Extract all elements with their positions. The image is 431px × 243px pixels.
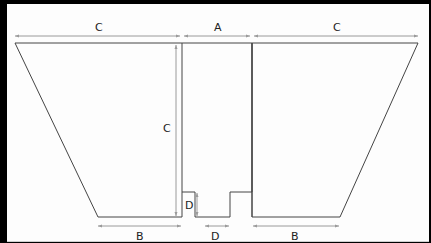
label-height: C [163,122,171,135]
arrowheads [15,35,418,228]
pattern-diagram: C A C C B B D D [0,0,431,243]
label-bottom-right-width: B [291,230,299,243]
label-bottom-left-width: B [136,230,144,243]
label-top-left-width: C [95,21,103,34]
top-dimensions [15,36,418,226]
shape-outline [15,43,418,217]
label-top-middle-width: A [214,21,222,34]
label-notch-width: D [211,230,219,243]
label-top-right-width: C [333,21,341,34]
label-notch-height: D [185,199,193,212]
